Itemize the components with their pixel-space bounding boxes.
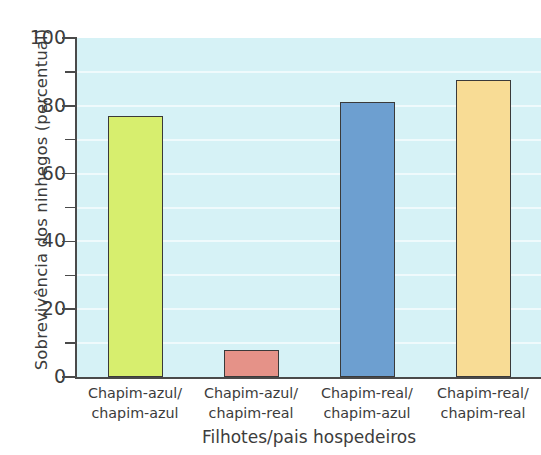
- y-axis-minor-tick: [65, 139, 76, 141]
- x-tick-label-line1: Chapim-real/: [437, 385, 529, 401]
- x-axis-tick-label: Chapim-real/chapim-azul: [309, 383, 425, 423]
- x-axis-tick-label: Chapim-real/chapim-real: [425, 383, 541, 423]
- x-axis-tick-labels: Chapim-azul/chapim-azulChapim-azul/chapi…: [77, 383, 541, 429]
- bars-group: [77, 38, 541, 377]
- x-tick-label-line2: chapim-azul: [77, 403, 193, 423]
- y-axis-tick-label: 40: [0, 231, 66, 250]
- x-axis-tick-label: Chapim-azul/chapim-real: [193, 383, 309, 423]
- x-tick-label-line1: Chapim-real/: [321, 385, 413, 401]
- x-axis-tick-label: Chapim-azul/chapim-azul: [77, 383, 193, 423]
- y-axis-tick-label: 60: [0, 164, 66, 183]
- y-axis-tick-label: 100: [0, 28, 66, 47]
- x-axis-line: [75, 377, 541, 379]
- y-axis-tick-label: 20: [0, 299, 66, 318]
- y-axis-minor-tick: [65, 342, 76, 344]
- plot-area: [77, 38, 541, 377]
- bar: [340, 102, 395, 377]
- y-axis-minor-tick: [65, 207, 76, 209]
- x-tick-label-line2: chapim-real: [425, 403, 541, 423]
- x-tick-label-line2: chapim-real: [193, 403, 309, 423]
- bar: [224, 350, 279, 377]
- y-axis-tick-labels: 020406080100: [0, 0, 66, 455]
- y-axis-tick-label: 80: [0, 96, 66, 115]
- y-axis-minor-tick: [65, 71, 76, 73]
- y-axis-major-tick: [62, 308, 76, 310]
- y-axis-major-tick: [62, 37, 76, 39]
- x-axis-title: Filhotes/pais hospedeiros: [77, 427, 541, 447]
- y-axis-major-tick: [62, 241, 76, 243]
- bar: [456, 80, 511, 377]
- x-tick-label-line1: Chapim-azul/: [88, 385, 182, 401]
- x-tick-label-line2: chapim-azul: [309, 403, 425, 423]
- bar-chart: Sobrevivência dos ninhegos (percentual) …: [0, 0, 541, 455]
- y-axis-major-tick: [62, 173, 76, 175]
- y-axis-major-tick: [62, 376, 76, 378]
- bar: [108, 116, 163, 377]
- x-tick-label-line1: Chapim-azul/: [204, 385, 298, 401]
- y-axis-minor-tick: [65, 275, 76, 277]
- y-axis-tick-label: 0: [0, 367, 66, 386]
- y-axis-major-tick: [62, 105, 76, 107]
